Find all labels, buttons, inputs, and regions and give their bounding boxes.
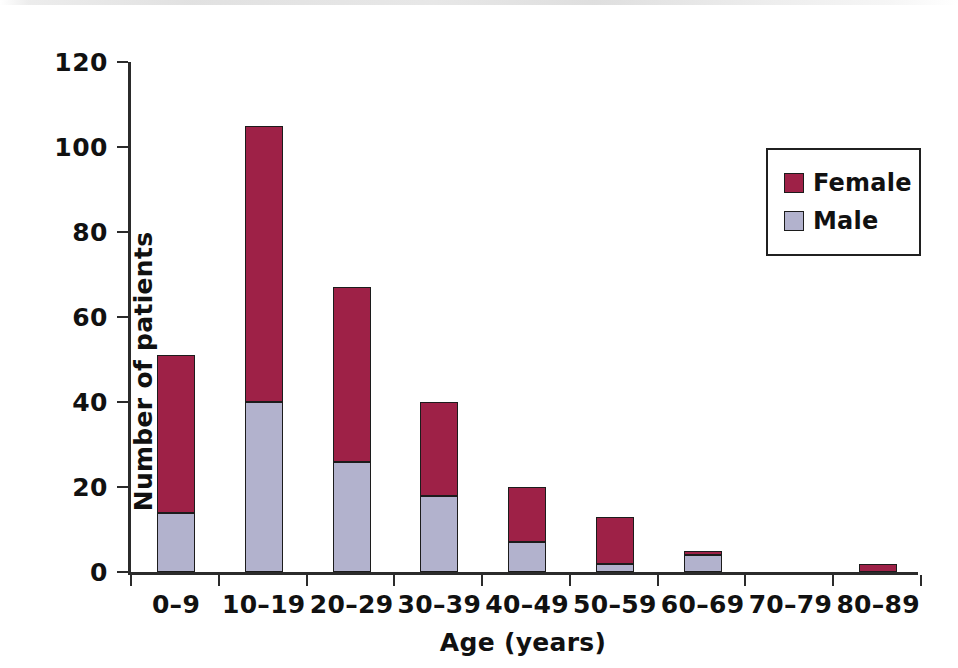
x-axis-tick-label: 30–39 bbox=[398, 590, 482, 619]
legend-swatch-female-icon bbox=[784, 173, 804, 193]
x-axis-title: Age (years) bbox=[128, 628, 918, 657]
bar-segment-male[interactable] bbox=[157, 513, 195, 573]
x-axis-tick bbox=[218, 575, 220, 586]
y-axis-tick-label: 120 bbox=[54, 48, 108, 77]
x-axis-line bbox=[128, 572, 918, 575]
chart-figure: 020406080100120 0–910–1920–2930–3940–495… bbox=[0, 0, 958, 668]
x-axis-tick bbox=[569, 575, 571, 586]
bar-group[interactable] bbox=[596, 62, 634, 572]
y-axis-tick-label: 60 bbox=[72, 303, 108, 332]
bar-group[interactable] bbox=[771, 62, 809, 572]
bar-group[interactable] bbox=[508, 62, 546, 572]
x-axis-tick-label: 0–9 bbox=[152, 590, 200, 619]
bar-segment-male[interactable] bbox=[596, 564, 634, 573]
legend-label-female: Female bbox=[813, 169, 912, 197]
y-axis-tick: 120 bbox=[117, 61, 128, 63]
legend-item-female[interactable]: Female bbox=[784, 164, 919, 202]
y-axis-tick: 0 bbox=[117, 571, 128, 573]
y-axis-tick-label: 40 bbox=[72, 388, 108, 417]
legend-item-male[interactable]: Male bbox=[784, 202, 919, 240]
legend-swatch-male-icon bbox=[784, 211, 804, 231]
plot-area: 020406080100120 0–910–1920–2930–3940–495… bbox=[128, 62, 918, 572]
legend-label-male: Male bbox=[813, 207, 878, 235]
bar-segment-female[interactable] bbox=[333, 287, 371, 461]
bar-segment-female[interactable] bbox=[596, 517, 634, 564]
x-axis-tick-label: 50–59 bbox=[573, 590, 657, 619]
bar-segment-female[interactable] bbox=[245, 126, 283, 402]
bar-series-container bbox=[128, 62, 918, 572]
x-axis-tick bbox=[744, 575, 746, 586]
y-axis-tick: 20 bbox=[117, 486, 128, 488]
x-axis-tick bbox=[306, 575, 308, 586]
y-axis-tick: 80 bbox=[117, 231, 128, 233]
bar-group[interactable] bbox=[684, 62, 722, 572]
chart-legend: Female Male bbox=[766, 148, 921, 256]
y-axis-tick-label: 0 bbox=[90, 558, 108, 587]
y-axis-tick-label: 100 bbox=[54, 133, 108, 162]
bar-segment-male[interactable] bbox=[245, 402, 283, 572]
bar-segment-female[interactable] bbox=[859, 564, 897, 573]
bar-group[interactable] bbox=[333, 62, 371, 572]
bar-segment-male[interactable] bbox=[508, 542, 546, 572]
bar-segment-male[interactable] bbox=[333, 462, 371, 573]
y-axis-tick: 40 bbox=[117, 401, 128, 403]
bar-segment-female[interactable] bbox=[157, 355, 195, 512]
x-axis-tick-label: 80–89 bbox=[836, 590, 920, 619]
scan-artifact-strip bbox=[0, 0, 958, 5]
bar-segment-male[interactable] bbox=[684, 555, 722, 572]
x-axis-tick bbox=[481, 575, 483, 586]
y-axis-tick: 60 bbox=[117, 316, 128, 318]
bar-segment-male[interactable] bbox=[420, 496, 458, 573]
bar-group[interactable] bbox=[245, 62, 283, 572]
x-axis-tick bbox=[832, 575, 834, 586]
x-axis-tick-label: 20–29 bbox=[310, 590, 394, 619]
y-axis-title: Number of patients bbox=[129, 92, 158, 652]
y-axis-tick-label: 20 bbox=[72, 473, 108, 502]
bar-segment-female[interactable] bbox=[684, 551, 722, 555]
y-axis-tick-label: 80 bbox=[72, 218, 108, 247]
x-axis-tick-label: 10–19 bbox=[222, 590, 306, 619]
bar-group[interactable] bbox=[859, 62, 897, 572]
x-axis-tick-label: 40–49 bbox=[485, 590, 569, 619]
x-axis-tick-label: 60–69 bbox=[661, 590, 745, 619]
bar-group[interactable] bbox=[420, 62, 458, 572]
y-axis-tick: 100 bbox=[117, 146, 128, 148]
x-axis-tick bbox=[920, 575, 922, 586]
x-axis-tick bbox=[393, 575, 395, 586]
x-axis-tick-label: 70–79 bbox=[749, 590, 833, 619]
x-axis-tick bbox=[657, 575, 659, 586]
bar-group[interactable] bbox=[157, 62, 195, 572]
bar-segment-female[interactable] bbox=[508, 487, 546, 542]
bar-segment-female[interactable] bbox=[420, 402, 458, 496]
